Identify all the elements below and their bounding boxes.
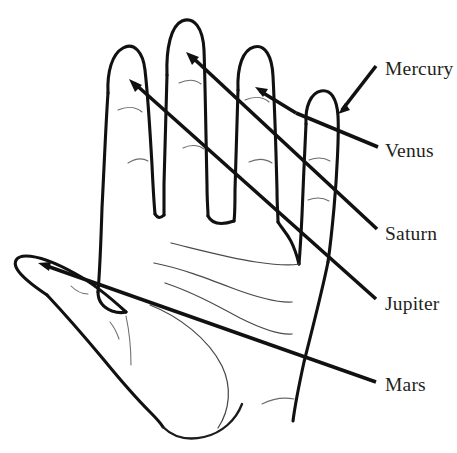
label-mars: Mars [385,375,426,395]
label-mercury: Mercury [385,59,454,79]
label-venus: Venus [385,141,434,161]
label-saturn: Saturn [385,224,437,244]
label-jupiter: Jupiter [385,294,439,314]
label-layer: Mercury Venus Saturn Jupiter Mars [0,0,457,453]
hand-planet-diagram: Mercury Venus Saturn Jupiter Mars [0,0,457,453]
